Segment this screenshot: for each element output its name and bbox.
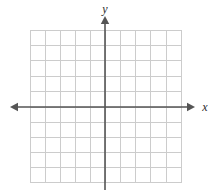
coordinate-grid-svg xyxy=(0,0,212,190)
x-axis-label: x xyxy=(199,101,211,113)
figure-background xyxy=(0,0,212,190)
coordinate-plane-figure: y x xyxy=(0,0,212,190)
y-axis-label: y xyxy=(98,3,112,15)
